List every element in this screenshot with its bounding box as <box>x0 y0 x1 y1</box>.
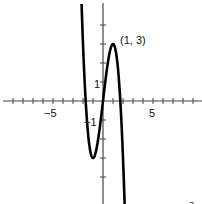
corner-superscript: 3 <box>189 200 194 204</box>
axis-labels: −5 5 1 −1 (1, 3) <box>44 34 155 128</box>
y-tick-label-neg1: −1 <box>84 116 97 128</box>
x-tick-label-5: 5 <box>149 107 155 119</box>
point-annotation: (1, 3) <box>120 34 146 46</box>
function-graph: −5 5 1 −1 (1, 3) <box>0 0 202 204</box>
y-tick-label-1: 1 <box>94 78 100 90</box>
x-tick-label-neg5: −5 <box>44 107 57 119</box>
